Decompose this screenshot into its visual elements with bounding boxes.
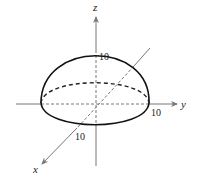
x-intercept-label: 10: [75, 131, 85, 142]
y-axis-label: y: [180, 98, 186, 110]
hemisphere-dome: [41, 56, 149, 103]
hemisphere-diagram: z y x 10 10 10: [0, 0, 199, 188]
z-axis-label: z: [92, 1, 98, 13]
base-back-arc: [41, 83, 149, 103]
z-intercept-label: 10: [99, 51, 109, 62]
x-axis-front: [42, 128, 77, 164]
x-axis-label: x: [32, 163, 38, 175]
x-axis-back: [134, 48, 150, 66]
base-front-arc: [41, 103, 149, 125]
y-intercept-label: 10: [151, 107, 161, 118]
x-axis-hidden: [77, 66, 134, 128]
